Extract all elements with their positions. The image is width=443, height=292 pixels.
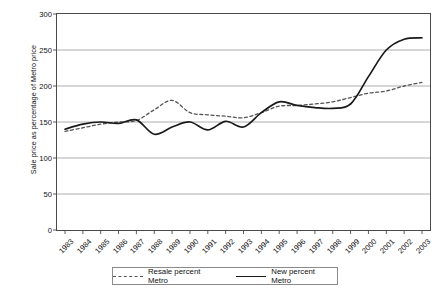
x-axis-tick-label: 1986 (111, 237, 129, 255)
y-axis-tick-label: 50 (44, 190, 52, 199)
x-axis-tick-label: 1987 (128, 237, 146, 255)
y-axis-title: Sale price as percentage of Metro price (29, 15, 38, 205)
x-axis-tick-label: 2003 (414, 237, 432, 255)
legend-label: New percent Metro (271, 267, 337, 285)
y-axis-tick-label: 0 (48, 226, 52, 235)
x-axis-tick-label: 1984 (75, 237, 93, 255)
x-axis-tick-label: 1983 (57, 237, 75, 255)
x-axis-tick-label: 1991 (200, 237, 218, 255)
legend-entry[interactable]: Resale percent Metro (113, 267, 222, 285)
x-axis-tick-label: 1985 (93, 237, 111, 255)
x-axis-tick-label: 1998 (325, 237, 343, 255)
x-axis-tick-label: 1994 (253, 237, 271, 255)
x-axis-tick-label: 1995 (271, 237, 289, 255)
y-axis-tick-label: 250 (39, 46, 52, 55)
x-axis-tick-label: 1999 (343, 237, 361, 255)
y-axis-tick-label: 300 (39, 10, 52, 19)
x-axis-tick-label: 1988 (146, 237, 164, 255)
legend-swatch-icon (113, 275, 143, 278)
y-axis-tick-label: 100 (39, 154, 52, 163)
data-lines (57, 14, 430, 230)
series-line (65, 38, 422, 135)
x-axis-tick-label: 1989 (164, 237, 182, 255)
legend-entry[interactable]: New percent Metro (236, 267, 337, 285)
x-axis-tick-label: 1996 (289, 237, 307, 255)
x-axis-tick-label: 2002 (396, 237, 414, 255)
x-axis-tick-label: 2000 (360, 237, 378, 255)
y-axis-tick-label: 200 (39, 82, 52, 91)
x-axis-tick-label: 2001 (378, 237, 396, 255)
chart-figure: Sale price as percentage of Metro price … (0, 0, 443, 292)
plot-area: 0501001502002503001983198419851986198719… (56, 13, 431, 231)
x-axis-tick-label: 1990 (182, 237, 200, 255)
legend-label: Resale percent Metro (148, 267, 222, 285)
chart-legend: Resale percent MetroNew percent Metro (112, 267, 338, 285)
x-axis-tick-label: 1992 (218, 237, 236, 255)
x-axis-tick-label: 1997 (307, 237, 325, 255)
legend-swatch-icon (236, 275, 266, 278)
y-axis-tick-label: 150 (39, 118, 52, 127)
x-axis-tick-label: 1993 (236, 237, 254, 255)
